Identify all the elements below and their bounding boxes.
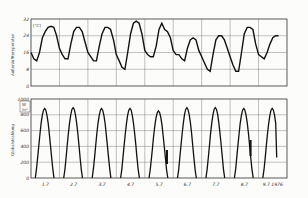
xtick-label: 8.7 [241,182,248,187]
xtick-label: 1.7 [42,182,49,187]
xtick-label: 7.7 [212,182,219,187]
lower-chart: 10008006004002000 W m² Globalstrahlung 1… [10,97,287,188]
chart-canvas: 32241680 [°C] Außenlufttemperatur 100080… [0,0,308,198]
lower-ytick: 800 [20,112,29,117]
upper-ytick: 0 [26,84,29,89]
lower-ytick: 200 [20,160,29,165]
xtick-label: 4.7 [127,182,134,187]
upper-ytick: 16 [23,50,29,55]
temperature-line [31,21,279,71]
xtick-label: 3.7 [99,182,106,187]
upper-ytick: 32 [23,17,29,22]
lower-ytick: 1000 [18,97,30,102]
lower-ytick: 0 [26,176,29,181]
xtick-label: 6.7 [184,182,191,187]
lower-ylabel: Globalstrahlung [10,124,15,156]
lower-unit-bottom: m² [22,107,28,112]
upper-ytick: 8 [26,67,29,72]
xtick-label: 9.7 1976 [263,182,283,187]
upper-unit: [°C] [33,23,41,28]
upper-chart: 32241680 [°C] Außenlufttemperatur [10,17,287,89]
radiation-line [35,108,276,178]
xtick-label: 5.7 [155,182,162,187]
lower-ytick: 400 [20,144,29,149]
upper-ytick: 24 [23,33,29,38]
xtick-label: 2.7 [70,182,77,187]
lower-ytick: 600 [20,128,29,133]
upper-ylabel: Außenlufttemperatur [10,34,15,76]
